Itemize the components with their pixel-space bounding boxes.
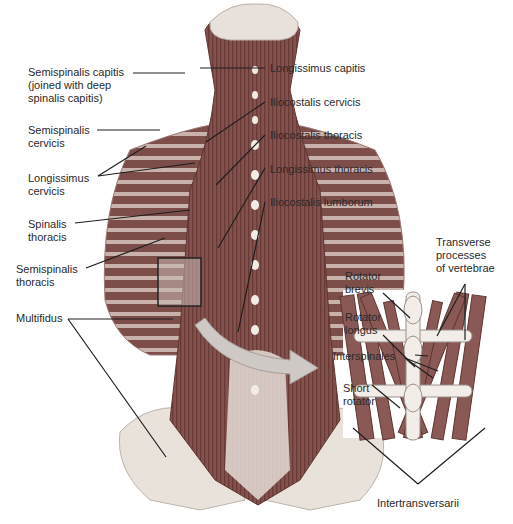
label-short-rotator: Short rotator (343, 382, 375, 408)
label-iliocostalis-cervicis: Iliocostalis cervicis (270, 96, 360, 109)
label-rotator-longus: Rotator longus (345, 311, 381, 337)
label-semispinalis-cervicis: Semispinalis cervicis (28, 124, 90, 150)
label-longissimus-cervicis: Longissimus cervicis (28, 172, 89, 198)
label-multifidus: Multifidus (16, 312, 62, 325)
label-longissimus-thoracis: Longissimus thoracis (270, 163, 373, 176)
label-longissimus-capitis: Longissimus capitis (270, 62, 365, 75)
erector-spinae (170, 4, 340, 505)
label-interspinales: Interspinales (333, 350, 395, 363)
label-iliocostalis-lumborum: Iliocostalis lumborum (270, 196, 373, 209)
label-semispinalis-capitis: Semispinalis capitis (joined with deep s… (28, 66, 124, 105)
label-spinalis-thoracis: Spinalis thoracis (28, 218, 67, 244)
inset-region-box (158, 258, 201, 306)
back-muscles-diagram: Semispinalis capitis (joined with deep s… (0, 0, 513, 524)
label-rotator-brevis: Rotator brevis (345, 270, 381, 296)
label-intertransversarii: Intertransversarii (377, 497, 459, 510)
label-iliocostalis-thoracis: Iliocostalis thoracis (270, 129, 362, 142)
label-semispinalis-thoracis: Semispinalis thoracis (16, 263, 78, 289)
label-transverse-processes: Transverse processes of vertebrae (436, 236, 495, 275)
